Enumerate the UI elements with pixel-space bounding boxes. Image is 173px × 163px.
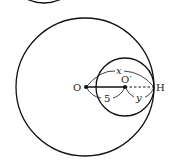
top-partial-circle [15, 0, 73, 3]
point-o [84, 85, 88, 89]
brace-5-right [113, 87, 125, 98]
point-oprime [123, 85, 127, 89]
label-y: y [135, 92, 142, 103]
geometry-diagram: O O′ H 5 x y [0, 0, 173, 163]
brace-y-left [125, 87, 134, 97]
label-o: O [73, 82, 81, 93]
label-5: 5 [104, 93, 110, 104]
brace-x-left [86, 71, 115, 87]
brace-5-left [86, 87, 101, 98]
label-h: H [156, 82, 165, 93]
label-x: x [116, 65, 122, 76]
label-oprime: O′ [121, 74, 132, 85]
